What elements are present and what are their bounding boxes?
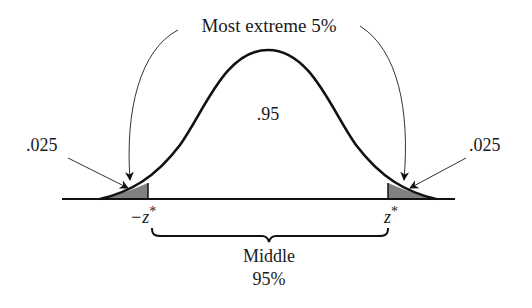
- right-critical-sup: *: [391, 204, 398, 219]
- right-critical-symbol: z: [383, 207, 391, 227]
- right-tail-arrow: [410, 158, 466, 188]
- normal-curve: [100, 50, 436, 199]
- right-critical-value-label: z*: [383, 204, 398, 227]
- middle-label-line1: Middle: [243, 246, 295, 266]
- normal-curve-diagram: Most extreme 5% .95 .025 .025 −z* z* Mid…: [0, 0, 532, 308]
- middle-brace: [152, 228, 388, 242]
- center-area-label: .95: [257, 104, 280, 124]
- left-critical-symbol: −z: [130, 207, 149, 227]
- left-critical-sup: *: [149, 204, 156, 219]
- title-label: Most extreme 5%: [201, 15, 336, 36]
- left-critical-value-label: −z*: [130, 204, 156, 227]
- right-tail-label: .025: [469, 135, 501, 155]
- middle-label-line2: 95%: [253, 269, 286, 289]
- left-tail-arrow: [68, 158, 128, 188]
- left-tail-label: .025: [26, 135, 58, 155]
